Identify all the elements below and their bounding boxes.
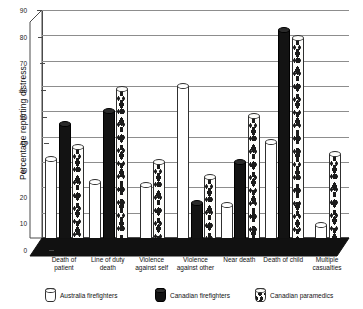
bar-top-ellipse: [191, 200, 203, 206]
plot-area: 0102030405060708090: [30, 10, 355, 255]
bar-body: [89, 182, 101, 238]
x-axis-label-line: casualties: [299, 264, 355, 272]
bar-top-ellipse: [177, 83, 189, 89]
bar: [278, 27, 290, 238]
bar-top-ellipse: [72, 144, 84, 150]
bar: [89, 179, 101, 238]
x-axis-category-labels: Death ofpatientLine of dutydeathViolence…: [30, 254, 355, 280]
bar-body: [204, 177, 216, 238]
y-tick-label: 60: [5, 87, 27, 94]
bar-body: [221, 205, 233, 238]
bar-body: [278, 30, 290, 238]
y-tick-label: 20: [5, 193, 27, 200]
black-cylinder-swatch: [155, 288, 166, 302]
bar: [116, 86, 128, 238]
legend-label: Australia firefighters: [60, 292, 117, 299]
bar-top-ellipse: [116, 86, 128, 92]
bar-body: [116, 89, 128, 238]
legend-item[interactable]: Canadian paramedics: [255, 288, 333, 302]
y-tick-label: 30: [5, 167, 27, 174]
bar: [191, 200, 203, 238]
y-tick-label: 0: [5, 247, 27, 254]
bar: [329, 151, 341, 238]
bar: [265, 139, 277, 238]
chart-legend: Australia firefightersCanadian firefight…: [0, 284, 363, 309]
bar: [221, 202, 233, 238]
y-tick-label: 50: [5, 113, 27, 120]
bar: [248, 113, 260, 238]
bar: [177, 83, 189, 238]
legend-label: Canadian paramedics: [270, 292, 333, 299]
bar-body: [329, 154, 341, 238]
bars-layer: [42, 10, 349, 238]
x-axis-label: Multiplecasualties: [299, 256, 355, 272]
y-tick-mark: [49, 250, 54, 251]
y-tick-label: 40: [5, 140, 27, 147]
bar-body: [103, 111, 115, 238]
bar: [72, 144, 84, 238]
bar: [292, 35, 304, 238]
white-cylinder-swatch: [45, 288, 56, 302]
bar-body: [234, 162, 246, 238]
y-tick-label: 10: [5, 220, 27, 227]
bar: [315, 222, 327, 238]
y-tick-label: 70: [5, 60, 27, 67]
bar-body: [177, 86, 189, 238]
bar-body: [45, 159, 57, 238]
legend-item[interactable]: Canadian firefighters: [155, 288, 230, 302]
bar: [45, 156, 57, 238]
bar-body: [292, 38, 304, 238]
bar-top-ellipse: [59, 121, 71, 127]
bar-top-ellipse: [265, 139, 277, 145]
bar: [234, 159, 246, 238]
bar-body: [140, 185, 152, 238]
bar: [140, 182, 152, 238]
dotted-cylinder-swatch: [255, 288, 266, 302]
bar: [204, 174, 216, 238]
bar-top-ellipse: [221, 202, 233, 208]
bar-body: [59, 124, 71, 238]
bar-body: [72, 147, 84, 238]
y-tick-label: 80: [5, 33, 27, 40]
legend-label: Canadian firefighters: [170, 292, 230, 299]
x-axis-label-line: Multiple: [299, 256, 355, 264]
y-tick-label: 90: [5, 7, 27, 14]
legend-item[interactable]: Australia firefighters: [45, 288, 117, 302]
x-axis-label-line: against other: [168, 264, 224, 272]
bar-body: [248, 116, 260, 238]
bar-body: [153, 162, 165, 238]
bar-body: [265, 142, 277, 238]
bar: [153, 159, 165, 238]
bar: [103, 108, 115, 238]
distress-bar-chart: Percentage reporting distress 0102030405…: [0, 0, 363, 309]
bar-top-ellipse: [140, 182, 152, 188]
bar-body: [191, 203, 203, 238]
bar-top-ellipse: [292, 35, 304, 41]
bar: [59, 121, 71, 238]
